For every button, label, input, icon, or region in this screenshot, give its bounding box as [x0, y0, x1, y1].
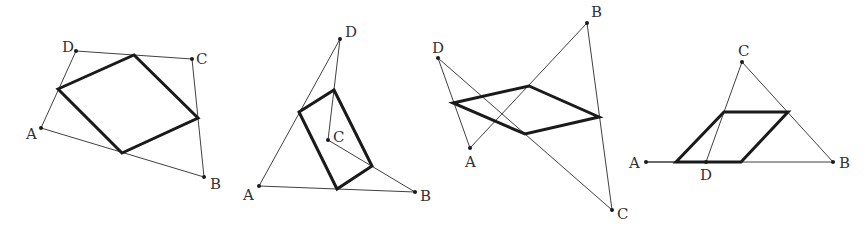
- vertex-label-a: A: [464, 153, 476, 171]
- vertex-label-b: B: [210, 175, 221, 193]
- diagram-canvas: ABCD ABCD ABCD ABCD: [0, 0, 866, 227]
- vertex-point-a: [644, 160, 648, 164]
- vertex-label-d: D: [345, 23, 357, 41]
- vertex-label-c: C: [738, 42, 749, 60]
- vertex-point-c: [610, 208, 614, 212]
- vertex-point-c: [740, 60, 744, 64]
- quadrilateral-outline: [438, 23, 612, 210]
- midpoint-parallelogram: [676, 112, 788, 162]
- vertex-label-a: A: [25, 125, 37, 143]
- figure-4-degenerate-quadrilateral: ABCD: [628, 42, 850, 184]
- vertex-point-b: [202, 175, 206, 179]
- vertex-point-b: [585, 21, 589, 25]
- quadrilateral-outline: [41, 51, 204, 177]
- vertex-label-b: B: [839, 154, 850, 172]
- vertex-point-d: [704, 160, 708, 164]
- vertex-label-d: D: [700, 166, 712, 184]
- vertex-point-a: [257, 184, 261, 188]
- vertex-label-a: A: [628, 154, 640, 172]
- vertex-label-c: C: [617, 205, 628, 223]
- vertex-point-b: [831, 160, 835, 164]
- vertex-label-c: C: [196, 50, 207, 68]
- vertex-label-b: B: [591, 3, 602, 21]
- quadrilateral-outline: [259, 39, 415, 192]
- vertex-label-a: A: [242, 186, 254, 204]
- vertex-point-d: [338, 37, 342, 41]
- vertex-point-c: [190, 57, 194, 61]
- vertex-point-a: [468, 146, 472, 150]
- vertex-label-d: D: [62, 38, 74, 56]
- vertex-point-a: [39, 126, 43, 130]
- vertex-label-c: C: [333, 128, 344, 146]
- figure-3-crossed-quadrilateral: ABCD: [432, 3, 628, 223]
- midpoint-parallelogram: [453, 86, 599, 134]
- vertex-point-b: [413, 190, 417, 194]
- figure-1-convex-quadrilateral: ABCD: [25, 38, 221, 193]
- vertex-label-b: B: [420, 187, 431, 205]
- vertex-point-c: [326, 138, 330, 142]
- vertex-point-d: [74, 49, 78, 53]
- midpoint-parallelogram: [58, 55, 198, 153]
- figure-2-concave-quadrilateral: ABCD: [242, 23, 431, 205]
- vertex-label-d: D: [432, 39, 444, 57]
